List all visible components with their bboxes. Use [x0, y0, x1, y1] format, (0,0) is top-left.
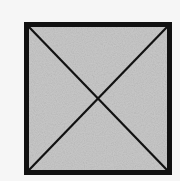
diagram-figure: Square with both diagonals drawn, formin…: [0, 0, 180, 181]
square-with-diagonals: [0, 0, 180, 181]
